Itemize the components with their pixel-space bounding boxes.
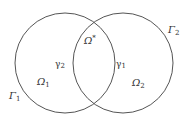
venn-diagram: Ω* Ω1 Ω2 γ2 γ1 Γ1 Γ2: [0, 0, 189, 124]
label-omega-2: Ω2: [131, 77, 145, 90]
label-gamma-2: γ2: [55, 59, 65, 70]
circle-gamma-1: [15, 13, 115, 113]
label-omega-1: Ω1: [36, 76, 50, 89]
label-omega-star: Ω*: [83, 34, 96, 46]
label-Gamma-1: Γ1: [8, 90, 20, 103]
label-gamma-1: γ1: [116, 59, 126, 70]
label-Gamma-2: Γ2: [167, 24, 179, 37]
diagram-canvas: Ω* Ω1 Ω2 γ2 γ1 Γ1 Γ2: [0, 0, 189, 124]
